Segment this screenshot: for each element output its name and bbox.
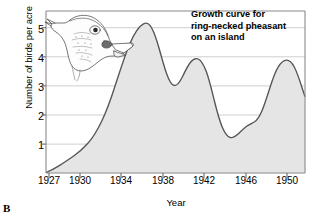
chart-title-line-1: Growth curve for <box>191 9 286 21</box>
chart-title: Growth curve for ring-necked pheasant on… <box>191 9 286 44</box>
panel-letter: B <box>3 202 10 214</box>
chart-title-line-2: ring-necked pheasant <box>191 21 286 33</box>
x-axis-title: Year <box>46 197 306 208</box>
pheasant-wattle <box>102 41 112 48</box>
chart-title-line-3: on an island <box>191 32 286 44</box>
figure-panel-b: Number of birds per acre 5 4 3 2 1 1927 … <box>0 0 314 218</box>
x-tick-marks <box>49 173 287 179</box>
pheasant-eye-pupil <box>93 28 98 33</box>
y-tick-marks <box>42 28 47 144</box>
